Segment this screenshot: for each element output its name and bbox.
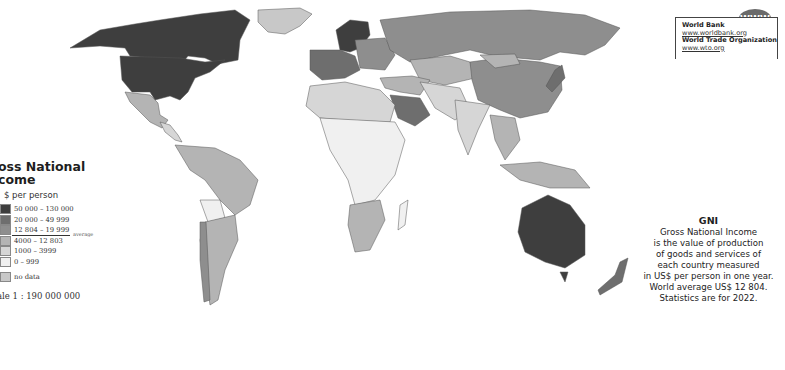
gni-text-line: is the value of production: [632, 238, 785, 249]
legend-label: 20 000 – 49 999: [14, 216, 69, 224]
legend-label: 4000 – 12 803: [14, 237, 63, 245]
region-new-zealand: [598, 258, 628, 295]
legend-item: average 4000 – 12 803: [0, 236, 120, 247]
gni-text-line: in US$ per person in one year.: [632, 271, 785, 282]
legend-item: 20 000 – 49 999: [0, 215, 120, 226]
legend-label: 0 – 999: [14, 258, 39, 266]
region-greenland: [258, 8, 312, 34]
region-tasmania: [560, 272, 568, 282]
legend-swatch: [0, 204, 11, 214]
region-europe-west: [310, 50, 360, 80]
region-southeast-asia: [490, 115, 520, 160]
gni-text-line: Gross National Income: [632, 227, 785, 238]
legend-unit: $ per person: [4, 190, 120, 200]
legend-title-line2: come: [0, 173, 120, 186]
legend-item: 0 – 999: [0, 257, 120, 268]
legend-label: 1000 – 3999: [14, 247, 56, 255]
legend-label: 12 804 – 19 999: [14, 226, 69, 234]
region-central-africa: [320, 118, 405, 205]
gni-text-line: World average US$ 12 804.: [632, 282, 785, 293]
legend-item: no data: [0, 272, 120, 283]
average-divider: [12, 235, 70, 236]
region-central-america: [160, 122, 182, 142]
region-indonesia: [500, 162, 590, 188]
gni-description: GNI Gross National Income is the value o…: [632, 215, 785, 304]
source-box: World Bank www.worldbank.org World Trade…: [675, 17, 778, 59]
legend-swatch: [0, 225, 11, 235]
average-label: average: [73, 231, 93, 237]
gni-title: GNI: [632, 215, 785, 226]
legend-swatch: [0, 246, 11, 256]
map-legend: oss National come $ per person 50 000 – …: [0, 160, 120, 301]
gni-text-line: Statistics are for 2022.: [632, 293, 785, 304]
legend-label: 50 000 – 130 000: [14, 205, 74, 213]
region-southern-africa: [348, 200, 385, 252]
gni-text-line: of goods and services of: [632, 249, 785, 260]
region-madagascar: [398, 200, 408, 230]
region-north-africa: [306, 82, 395, 122]
legend-item: 50 000 – 130 000: [0, 204, 120, 215]
legend-item: 1000 – 3999: [0, 246, 120, 257]
legend-swatch: [0, 272, 11, 282]
legend-swatch: [0, 236, 11, 246]
legend-swatch: [0, 257, 11, 267]
legend-label: no data: [14, 273, 40, 281]
region-australia: [518, 195, 585, 268]
legend-swatch: [0, 215, 11, 225]
gni-text-line: each country measured: [632, 260, 785, 271]
map-scale: ale 1 : 190 000 000: [0, 291, 120, 301]
region-india: [455, 100, 490, 155]
region-saudi-arabia: [390, 95, 430, 126]
source-wto-link[interactable]: www.wto.org: [682, 45, 777, 53]
